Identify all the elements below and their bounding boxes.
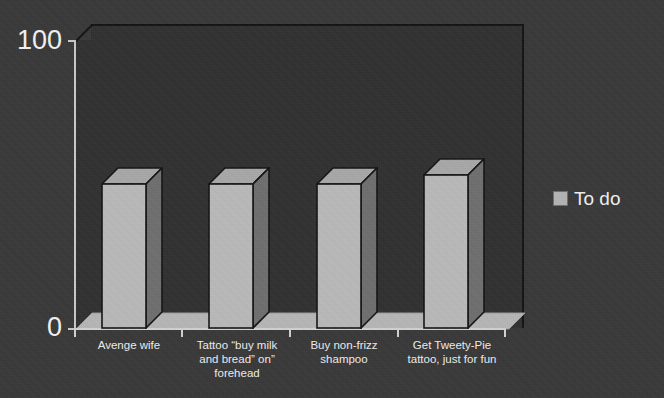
category-label-line: Tattoo “buy milk [175,338,299,352]
chart-screenshot: 100 0 Avenge wi [0,0,664,398]
x-axis-tick-2 [289,330,291,337]
category-label-line: tattoo, just for fun [390,352,514,366]
x-axis-tick-0 [74,330,76,337]
legend-item-label: To do [574,189,620,208]
category-label-line: shampoo [282,352,406,366]
bar-column [423,158,485,329]
bar-column [101,167,163,329]
category-label-line: Buy non-frizz [282,338,406,352]
category-label-line: and bread” on” [175,352,299,366]
y-axis-line [74,40,76,329]
x-axis-category-label: Get Tweety-Pietattoo, just for fun [390,338,514,366]
x-axis-category-label: Buy non-frizzshampoo [282,338,406,366]
category-label-line: Get Tweety-Pie [390,338,514,352]
y-axis-label-0: 0 [0,314,62,341]
y-axis-tick-100 [68,40,75,42]
plot-depth-edge [75,24,93,42]
x-axis-tick-3 [397,330,399,337]
x-axis-category-label: Avenge wife [67,338,191,352]
x-axis-tick-4 [504,330,506,337]
chart-legend: To do [553,189,620,208]
x-axis-category-label: Tattoo “buy milkand bread” on”forehead [175,338,299,380]
bar-column [208,167,270,329]
category-label-line: Avenge wife [67,338,191,352]
x-axis-tick-1 [181,330,183,337]
y-axis-label-100: 100 [0,27,62,54]
legend-swatch-icon [553,191,568,206]
bar-column [316,167,378,329]
category-label-line: forehead [175,366,299,380]
